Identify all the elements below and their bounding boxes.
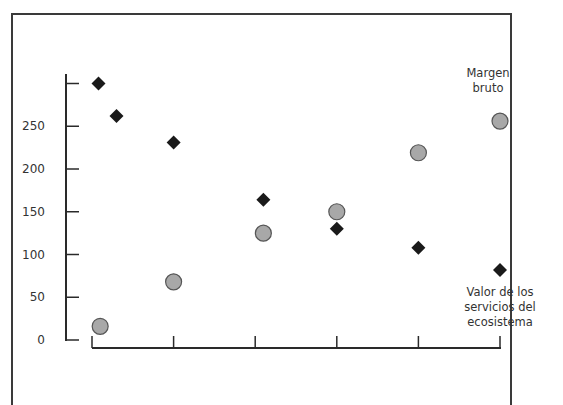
circle-marker bbox=[492, 113, 508, 129]
data-points bbox=[92, 77, 508, 335]
y-tick-label: 0 bbox=[37, 333, 45, 347]
valor-servicios-label-line1: Valor de los bbox=[467, 285, 534, 299]
circle-marker bbox=[329, 204, 345, 220]
diamond-marker bbox=[109, 109, 123, 123]
diamond-marker bbox=[167, 135, 181, 149]
y-tick-label: 250 bbox=[22, 119, 45, 133]
legend-annotations: Margen bruto Valor de los servicios del … bbox=[464, 66, 536, 329]
margen-bruto-label-line2: bruto bbox=[473, 81, 504, 95]
diamond-marker bbox=[411, 241, 425, 255]
x-axis bbox=[92, 336, 501, 348]
diamond-marker bbox=[330, 222, 344, 236]
y-tick-label: 100 bbox=[22, 248, 45, 262]
y-tick-label: 200 bbox=[22, 162, 45, 176]
y-axis: 050100150200250 bbox=[22, 74, 79, 347]
circle-marker bbox=[410, 145, 426, 161]
y-tick-label: 150 bbox=[22, 205, 45, 219]
scatter-chart: 050100150200250 Margen bruto Valor de lo… bbox=[0, 0, 563, 405]
diamond-marker bbox=[92, 77, 106, 91]
circle-marker bbox=[92, 318, 108, 334]
y-tick-label: 50 bbox=[30, 290, 45, 304]
diamond-marker bbox=[493, 263, 507, 277]
circle-marker bbox=[166, 274, 182, 290]
valor-servicios-label-line3: ecosistema bbox=[467, 315, 532, 329]
margen-bruto-label-line1: Margen bbox=[466, 66, 509, 80]
circle-marker bbox=[255, 225, 271, 241]
diamond-marker bbox=[256, 193, 270, 207]
valor-servicios-label-line2: servicios del bbox=[464, 300, 536, 314]
